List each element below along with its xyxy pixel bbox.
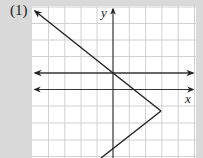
x-axis-label: x — [184, 91, 191, 106]
coordinate-graph: y x — [0, 0, 203, 158]
y-axis-label: y — [99, 5, 107, 20]
